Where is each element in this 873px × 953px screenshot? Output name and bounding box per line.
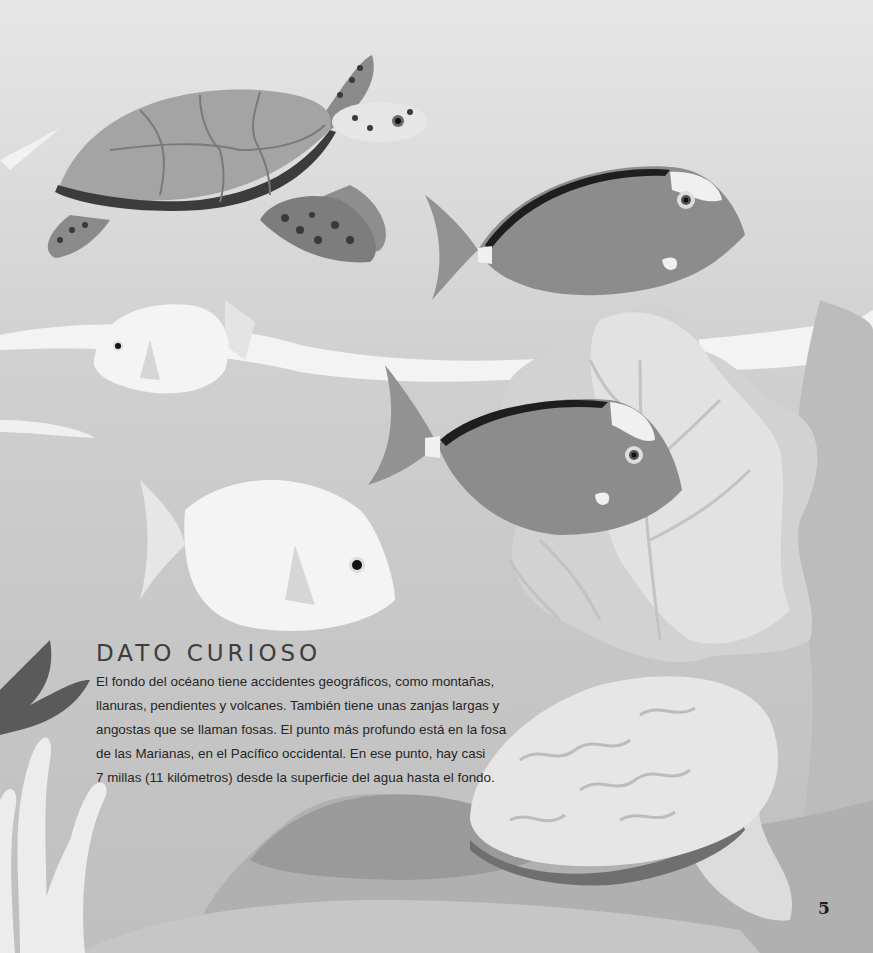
- white-fish-large: [140, 480, 395, 631]
- surgeonfish-upper: [425, 166, 745, 300]
- fun-fact-line: El fondo del océano tiene accidentes geo…: [96, 670, 496, 694]
- fun-fact-line: 7 millas (11 kilómetros) desde la superf…: [96, 766, 496, 790]
- fun-fact-line: angostas que se llaman fosas. El punto m…: [96, 718, 496, 742]
- fun-fact-title: DATO CURIOSO: [96, 640, 496, 666]
- book-page: DATO CURIOSO El fondo del océano tiene a…: [0, 0, 873, 953]
- sea-turtle: [48, 55, 428, 262]
- fun-fact-line: llanuras, pendientes y volcanes. También…: [96, 694, 496, 718]
- page-number: 5: [818, 898, 830, 918]
- fun-fact-line: de las Marianas, en el Pacífico occident…: [96, 742, 496, 766]
- fun-fact-box: DATO CURIOSO El fondo del océano tiene a…: [96, 640, 496, 790]
- fun-fact-body: El fondo del océano tiene accidentes geo…: [96, 670, 496, 790]
- white-fish-small: [94, 300, 255, 393]
- branching-coral: [0, 640, 107, 953]
- ocean-illustration: [0, 0, 873, 953]
